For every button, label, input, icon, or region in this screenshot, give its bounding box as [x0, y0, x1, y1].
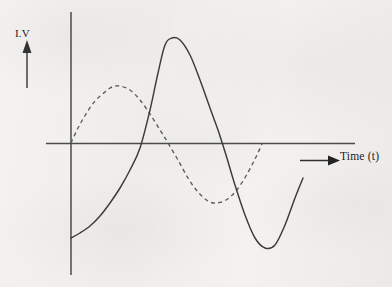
- y-axis-label: I.V: [15, 27, 30, 39]
- waveform-plot: [0, 0, 392, 287]
- x-axis-arrow-head-icon: [328, 156, 340, 166]
- figure-container: I.V Time (t): [0, 0, 392, 287]
- y-axis-arrow-head-icon: [23, 40, 32, 53]
- x-axis-label: Time (t): [340, 150, 379, 162]
- dashed-waveform-curve: [71, 86, 262, 203]
